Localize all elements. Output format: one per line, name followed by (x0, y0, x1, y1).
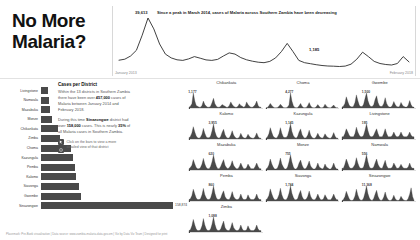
bar-label: Pemba (4, 165, 41, 169)
small-multiple-sinazongwe[interactable]: Sinazongwe11,368 (341, 173, 418, 204)
small-multiple-peak-label: 4,277 (285, 90, 293, 94)
info-panel: Cases per District Within the 13 distric… (58, 82, 134, 153)
panel-paragraph-2: During this time Sinazongwe district had… (58, 117, 134, 135)
small-multiple-peak-label: 3,955 (209, 121, 217, 125)
small-multiple-zimba[interactable]: Zimba1,088 (188, 204, 265, 235)
bar-row-gwembe[interactable]: Gwembe (4, 192, 184, 201)
bar-fill[interactable] (41, 202, 173, 209)
bar-label: Kalomo (4, 175, 41, 179)
bar-fill[interactable] (41, 97, 49, 104)
bar-track (41, 154, 184, 161)
bar-row-kalomo[interactable]: Kalomo (4, 172, 184, 181)
small-multiple-area (265, 90, 339, 109)
page-title: No More Malaria? (12, 10, 107, 53)
small-multiple-area (341, 183, 415, 202)
bar-track (41, 173, 184, 180)
timeline-headline: Since a peak in March 2014, cases of Mal… (157, 10, 337, 15)
small-multiple-namwala[interactable]: Namwala556 (341, 142, 418, 173)
small-multiple-area (265, 152, 339, 171)
bar-label: Chikankata (4, 127, 41, 131)
bar-row-pemba[interactable]: Pemba (4, 163, 184, 172)
bar-label: Choma (4, 146, 41, 150)
hint-line-2: detailed view of that district (67, 145, 117, 150)
hint-icon-group (58, 139, 64, 153)
small-multiple-axis (343, 201, 416, 202)
bar-fill[interactable] (41, 116, 52, 123)
small-multiple-peak-label: 1,145 (285, 121, 293, 125)
district-small-multiples[interactable]: Chikankata1,177Choma4,277Gwembe1,500Kalo… (188, 80, 418, 235)
small-multiple-peak-label: 1,177 (188, 90, 196, 94)
timeline-sparkline (113, 6, 415, 76)
small-multiple-mazabuka[interactable]: Mazabuka620 (188, 142, 265, 173)
p1-total-cases: 457,000 (96, 95, 110, 100)
small-multiple-peak-label: 195 (362, 121, 368, 125)
small-multiple-kazungula[interactable]: Kazungula1,145 (265, 111, 342, 142)
small-multiple-title: Siavonga (265, 173, 342, 178)
bar-row-kazungula[interactable]: Kazungula (4, 153, 184, 162)
bar-track (41, 193, 184, 200)
bar-row-siavonga[interactable]: Siavonga (4, 182, 184, 191)
small-multiple-area (265, 183, 339, 202)
small-multiple-kalomo[interactable]: Kalomo3,955 (188, 111, 265, 142)
bar-track: 158,874 (41, 202, 184, 209)
bar-label: Gwembe (4, 194, 41, 198)
small-multiple-axis (267, 201, 340, 202)
p2-text-e: cases. This is nearly (81, 123, 118, 128)
bar-fill[interactable] (41, 106, 50, 113)
bar-fill[interactable] (41, 164, 75, 171)
dashboard-page: No More Malaria? 39,613 Since a peak in … (0, 0, 420, 240)
small-multiple-peak-label: 1,500 (362, 90, 370, 94)
p2-district-cases: 158,000 (67, 123, 81, 128)
timeline-low-label: 1,185 (309, 47, 319, 52)
p2-percent: 35% (118, 123, 126, 128)
small-multiple-area (341, 121, 415, 140)
bar-fill[interactable] (41, 87, 48, 94)
small-multiple-livingstone[interactable]: Livingstone195 (341, 111, 418, 142)
small-multiple-axis (267, 139, 340, 140)
small-multiple-area (188, 121, 262, 140)
small-multiple-title: Namwala (341, 142, 418, 147)
small-multiple-title: Choma (265, 80, 342, 85)
small-multiple-axis (343, 139, 416, 140)
small-multiple-area (341, 152, 415, 171)
small-multiple-peak-label: 11,368 (362, 183, 372, 187)
small-multiple-axis (190, 170, 263, 171)
small-multiple-area (188, 183, 262, 202)
bar-fill[interactable] (41, 193, 81, 200)
small-multiple-pemba[interactable]: Pemba860 (188, 173, 265, 204)
small-multiple-peak-label: 1,088 (209, 214, 217, 218)
cursor-click-icon (58, 139, 64, 145)
bar-row-sinazongwe[interactable]: Sinazongwe158,874 (4, 201, 184, 210)
small-multiple-siavonga[interactable]: Siavonga1,744 (265, 173, 342, 204)
footer-credits: Placemark: Pre-Bank visualisation | Data… (6, 232, 306, 236)
small-multiple-area (188, 214, 262, 233)
small-multiple-title: Monze (265, 142, 342, 147)
small-multiple-axis (343, 170, 416, 171)
bar-track (41, 164, 184, 171)
small-multiple-title: Kazungula (265, 111, 342, 116)
small-multiple-chikankata[interactable]: Chikankata1,177 (188, 80, 265, 111)
small-multiple-axis (190, 108, 263, 109)
bar-fill[interactable] (41, 125, 58, 132)
small-multiple-area (188, 90, 262, 109)
section-divider (0, 78, 420, 79)
small-multiple-title: Zimba (188, 204, 265, 209)
bar-label: Namwala (4, 98, 41, 102)
small-multiple-gwembe[interactable]: Gwembe1,500 (341, 80, 418, 111)
timeline-axis-end: February 2018 (390, 71, 413, 75)
bar-label: Monze (4, 117, 41, 121)
bar-fill[interactable] (41, 173, 76, 180)
p2-district: Sinazongwe (86, 117, 108, 122)
small-multiple-area (188, 152, 262, 171)
malaria-timeline-chart[interactable]: 39,613 Since a peak in March 2014, cases… (112, 6, 416, 76)
small-multiple-choma[interactable]: Choma4,277 (265, 80, 342, 111)
panel-paragraph-1: Within the 13 districts in Southern Zamb… (58, 89, 134, 113)
small-multiple-axis (267, 108, 340, 109)
bar-fill[interactable] (41, 154, 73, 161)
small-multiple-peak-label: 556 (362, 152, 368, 156)
bar-fill[interactable] (41, 183, 79, 190)
small-multiple-monze[interactable]: Monze755 (265, 142, 342, 173)
small-multiple-area (265, 121, 339, 140)
timeline-peak-label: 39,613 (135, 10, 148, 15)
small-multiple-peak-label: 860 (209, 183, 215, 187)
